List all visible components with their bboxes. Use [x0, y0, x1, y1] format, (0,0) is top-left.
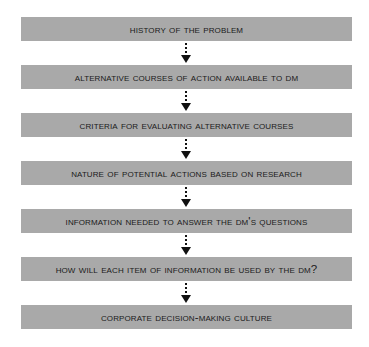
step-information-needed: Information Needed to Answer the DM's Qu…	[21, 209, 352, 233]
step-label: Corporate Decision-Making Culture	[101, 311, 272, 323]
step-history-of-problem: History of the Problem	[21, 17, 352, 41]
step-corporate-culture: Corporate Decision-Making Culture	[21, 305, 352, 329]
dotted-arrow-down-icon	[181, 233, 191, 257]
step-label: Criteria for Evaluating Alternative Cour…	[80, 119, 294, 131]
dotted-arrow-down-icon	[181, 137, 191, 161]
step-criteria: Criteria for Evaluating Alternative Cour…	[21, 113, 352, 137]
dotted-arrow-down-icon	[181, 89, 191, 113]
dotted-arrow-down-icon	[181, 281, 191, 305]
step-alternative-courses: Alternative Courses of Action Available …	[21, 65, 352, 89]
step-label: Nature of Potential Actions Based on Res…	[71, 167, 302, 179]
step-information-use: How Will Each Item of Information Be Use…	[21, 257, 352, 281]
dotted-arrow-down-icon	[181, 41, 191, 65]
step-nature-of-actions: Nature of Potential Actions Based on Res…	[21, 161, 352, 185]
dotted-arrow-down-icon	[181, 185, 191, 209]
step-label: How Will Each Item of Information Be Use…	[56, 263, 318, 275]
step-label: Information Needed to Answer the DM's Qu…	[66, 215, 308, 227]
step-label: Alternative Courses of Action Available …	[75, 71, 298, 83]
step-label: History of the Problem	[130, 23, 243, 35]
